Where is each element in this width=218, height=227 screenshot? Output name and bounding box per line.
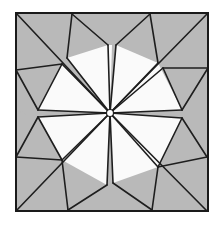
figure-canvas: Folded square crease pattern bbox=[0, 0, 218, 227]
center-hub bbox=[107, 110, 114, 117]
folded-square-diagram bbox=[0, 0, 218, 227]
